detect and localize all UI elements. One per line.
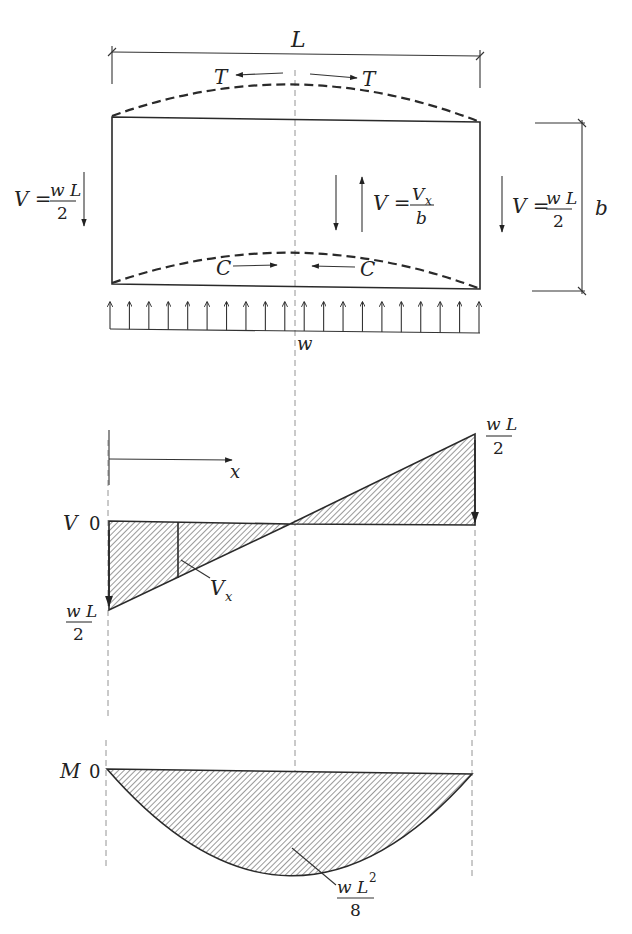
vx-sub: x <box>225 589 233 604</box>
moment-max-exp: 2 <box>369 871 377 885</box>
right-reaction-lhs: V = <box>512 194 550 218</box>
shear-left-value-num: w L <box>66 601 97 621</box>
web-shear-den: b <box>416 208 427 228</box>
shear-negative-region <box>109 521 290 610</box>
compression-forces: C C <box>216 256 375 281</box>
moment-max-num: w L <box>337 877 368 897</box>
right-reaction: V = w L 2 <box>502 176 577 232</box>
compression-label-right: C <box>360 257 375 281</box>
shear-left-value-den: 2 <box>73 624 84 644</box>
web-shear-num: V <box>412 184 426 204</box>
x-axis-label: x <box>230 461 240 482</box>
left-reaction-num: w L <box>50 180 81 200</box>
web-shear-num-sub: x <box>425 194 432 208</box>
shear-diagram: x V 0 V x w L 2 w L 2 <box>63 414 517 740</box>
shear-zero-label: 0 <box>89 513 100 534</box>
load-label: w <box>297 333 313 354</box>
right-reaction-den: 2 <box>553 211 564 231</box>
x-axis-arrow <box>109 459 232 460</box>
left-reaction-lhs: V = <box>14 187 52 211</box>
beam-diagram: L T T C C V = w L 2 V = V x b V <box>0 0 632 934</box>
left-reaction: V = w L 2 <box>14 172 84 226</box>
moment-max-den: 8 <box>350 900 361 920</box>
depth-label: b <box>595 196 608 220</box>
left-reaction-den: 2 <box>57 203 68 223</box>
tension-label-right: T <box>362 67 377 91</box>
web-shear: V = V x b <box>336 175 434 232</box>
web-shear-lhs: V = <box>373 191 411 215</box>
shear-right-value-den: 2 <box>493 438 504 458</box>
shear-positive-region <box>290 434 475 525</box>
span-dimension: L <box>108 27 484 88</box>
distributed-load: w <box>110 302 480 354</box>
compression-label-left: C <box>216 256 231 280</box>
shear-axis-label: V <box>63 511 80 535</box>
right-reaction-num: w L <box>546 188 577 208</box>
shear-right-value-num: w L <box>486 414 517 434</box>
tension-arch <box>112 84 480 122</box>
span-label: L <box>290 27 306 52</box>
moment-zero-label: 0 <box>89 761 100 782</box>
load-arrows <box>110 302 479 333</box>
moment-parabola <box>107 769 472 876</box>
moment-axis-label: M <box>59 759 81 783</box>
moment-diagram: M 0 w L 2 8 <box>59 740 472 920</box>
tension-label-left: T <box>214 65 229 89</box>
